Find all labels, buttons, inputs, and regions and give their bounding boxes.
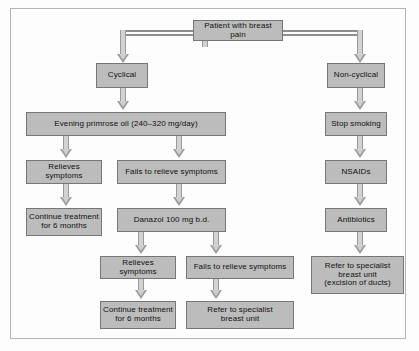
node-label: Stop smoking (328, 120, 384, 129)
connector-cyclical-drop (120, 30, 126, 56)
node-label-line2: for 6 months (103, 315, 173, 324)
node-cyclical[interactable]: Cyclical (96, 63, 148, 88)
arrowhead-to-dan-continue (135, 290, 147, 299)
connector-root-to-noncyclical-h2 (272, 34, 360, 36)
connector-root-to-cyclical-h (122, 30, 204, 32)
node-patient-with-breast-pain[interactable]: Patient with breast pain (193, 20, 283, 41)
node-label-line3: (excision of ducts) (314, 279, 401, 288)
arrowhead-to-nsaids (354, 149, 366, 158)
arrowhead-to-dan-fails (210, 245, 222, 254)
node-label: Non-cyclical (330, 71, 382, 80)
arrowhead-to-stopsmoking (354, 101, 366, 110)
node-label: Cyclical (99, 71, 145, 80)
node-label: Patient with breast pain (196, 22, 280, 40)
connector-noncyclical-drop (357, 30, 363, 56)
node-label-line2: for 6 months (29, 222, 99, 231)
arrowhead-to-epo (117, 101, 129, 110)
node-label: Refer to specialistbreast unit (189, 306, 291, 324)
node-label-line1: Continue treatment (29, 212, 99, 221)
node-label-line1: Refer to specialist (207, 305, 272, 314)
node-stop-smoking[interactable]: Stop smoking (325, 112, 387, 136)
arrowhead-to-cyclical (117, 54, 129, 63)
node-label: Fails to relieve symptoms (120, 168, 223, 177)
node-danazol[interactable]: Danazol 100 mg b.d. (117, 208, 226, 232)
connector-root-to-cyclical-h2 (122, 34, 204, 36)
node-label-line1: Refer to specialist (325, 261, 390, 270)
arrowhead-to-dan-relieves (135, 245, 147, 254)
node-epo-fails-to-relieve-symptoms[interactable]: Fails to relieve symptoms (117, 160, 226, 184)
node-label: Continue treatmentfor 6 months (103, 306, 173, 324)
node-epo-continue-treatment[interactable]: Continue treatmentfor 6 months (26, 208, 102, 236)
node-nsaids[interactable]: NSAIDs (325, 160, 387, 184)
arrowhead-to-epo-fails (173, 149, 185, 158)
node-label: NSAIDs (328, 168, 384, 177)
node-label-line1: Continue treatment (103, 305, 173, 314)
node-danazol-relieves-symptoms[interactable]: Relieves symptoms (100, 256, 176, 279)
node-label: Relieves symptoms (103, 259, 173, 277)
arrowhead-to-noncyclical (354, 54, 366, 63)
arrowhead-to-dan-refer (210, 290, 222, 299)
node-epo-relieves-symptoms[interactable]: Relieves symptoms (26, 160, 102, 184)
arrowhead-to-epo-continue (60, 197, 72, 206)
node-label: Evening primrose oil (240–320 mg/day) (29, 120, 223, 129)
node-label: Danazol 100 mg b.d. (120, 216, 223, 225)
node-label: Relieves symptoms (29, 163, 99, 181)
node-non-cyclical[interactable]: Non-cyclical (327, 63, 385, 88)
arrowhead-to-antibiotics (354, 197, 366, 206)
arrowhead-to-epo-relieves (60, 149, 72, 158)
connector-root-to-noncyclical-h (272, 30, 360, 32)
node-label-line2: breast unit (189, 315, 291, 324)
flowchart-canvas: Patient with breast pain Cyclical Non-cy… (0, 0, 419, 351)
node-noncyclical-refer-to-specialist[interactable]: Refer to specialistbreast unit(excision … (311, 256, 404, 294)
node-antibiotics[interactable]: Antibiotics (325, 208, 387, 232)
node-label: Fails to relieve symptoms (189, 263, 291, 272)
arrowhead-to-nc-refer (354, 245, 366, 254)
node-label: Antibiotics (328, 216, 384, 225)
node-label: Continue treatmentfor 6 months (29, 213, 99, 231)
node-danazol-refer-to-specialist[interactable]: Refer to specialistbreast unit (186, 301, 294, 329)
node-danazol-continue-treatment[interactable]: Continue treatmentfor 6 months (100, 301, 176, 329)
node-evening-primrose-oil[interactable]: Evening primrose oil (240–320 mg/day) (26, 112, 226, 136)
node-label: Refer to specialistbreast unit(excision … (314, 262, 401, 289)
node-danazol-fails-to-relieve-symptoms[interactable]: Fails to relieve symptoms (186, 256, 294, 279)
connector-root-stub (202, 41, 208, 47)
arrowhead-to-danazol (173, 197, 185, 206)
